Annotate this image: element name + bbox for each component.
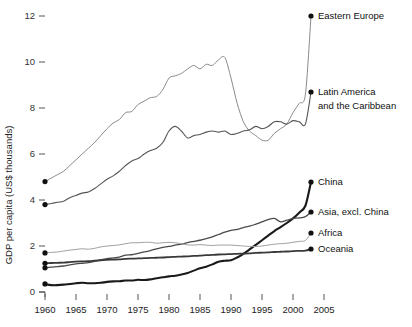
x-axis-tick-label: 1960 [34,304,55,315]
series-label: and the Caribbean [318,100,396,111]
series-label: Asia, excl. China [318,206,389,217]
x-axis-tick-label: 1965 [65,304,86,315]
x-axis-tick-label: 1995 [251,304,272,315]
series-label: Eastern Europe [318,10,384,21]
series-line [45,249,311,263]
series-label: Oceania [318,243,354,254]
gdp-per-capita-line-chart: 0246810121960196519701975198019851990199… [0,0,412,327]
series-line [45,16,311,182]
y-axis-tick-label: 4 [30,194,35,205]
y-axis-tick-label: 6 [30,148,35,159]
series-end-dot [308,209,313,214]
x-axis-tick-label: 2005 [313,304,334,315]
series-label: Africa [318,227,343,238]
series-label: Latin America [318,86,376,97]
series-line [45,182,311,285]
y-axis-title: GDP per capita (US$ thousands) [3,126,14,265]
y-axis-tick-label: 8 [30,102,35,113]
series-line [45,212,311,268]
series-label: China [318,176,344,187]
series-end-dot [308,179,313,184]
y-axis-tick-label: 12 [24,10,35,21]
series-start-dot [42,202,47,207]
x-axis-tick-label: 1970 [96,304,117,315]
series-line [45,233,311,253]
x-axis-tick-label: 1975 [127,304,148,315]
series-end-dot [308,13,313,18]
x-axis-tick-label: 1980 [158,304,179,315]
y-axis-tick-label: 2 [30,240,35,251]
series-start-dot [42,250,47,255]
series-end-dot [308,89,313,94]
origin-corner-mark [39,292,45,297]
series-start-dot [42,265,47,270]
series-end-dot [308,246,313,251]
series-start-dot [42,179,47,184]
series-end-dot [308,230,313,235]
x-axis-tick-label: 1985 [189,304,210,315]
y-axis-tick-label: 10 [24,56,35,67]
x-axis-tick-label: 2000 [282,304,303,315]
y-axis-tick-label: 0 [30,286,35,297]
x-axis-tick-label: 1990 [220,304,241,315]
series-start-dot [42,281,47,286]
chart-canvas: 0246810121960196519701975198019851990199… [0,0,412,327]
series-start-dot [42,261,47,266]
series-line [45,92,311,205]
